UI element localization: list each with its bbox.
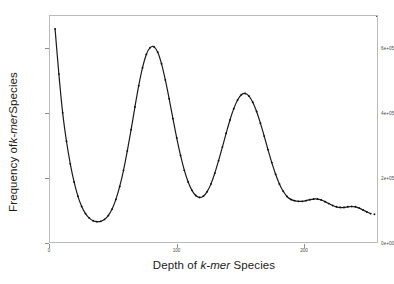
data-point — [96, 221, 98, 223]
title-text-part: Species — [230, 259, 275, 271]
data-point — [145, 53, 147, 55]
kmer-italic-text: k-mer — [7, 114, 19, 144]
plot-panel — [49, 15, 378, 243]
data-point — [58, 73, 60, 75]
data-point — [153, 46, 155, 48]
data-point — [119, 186, 121, 188]
data-point — [256, 111, 258, 113]
data-point — [149, 47, 151, 49]
data-point — [100, 220, 102, 222]
data-point — [191, 189, 193, 191]
data-point — [164, 79, 166, 81]
data-point — [107, 215, 109, 217]
data-point — [66, 140, 68, 142]
x-tick-label: 0 — [29, 248, 69, 253]
data-point — [225, 132, 227, 134]
data-point — [210, 183, 212, 185]
data-point — [130, 129, 132, 131]
data-point — [282, 190, 284, 192]
data-point — [347, 206, 349, 208]
data-point — [115, 198, 117, 200]
data-point — [248, 95, 250, 97]
data-point — [157, 51, 159, 53]
data-point — [343, 207, 345, 209]
data-point — [62, 112, 64, 114]
data-point — [183, 169, 185, 171]
data-point — [358, 207, 360, 209]
data-point — [351, 206, 353, 208]
data-point — [104, 218, 106, 220]
data-point — [316, 198, 318, 200]
x-axis-title: Depth of k-mer Species — [49, 259, 379, 271]
data-point — [294, 200, 296, 202]
data-point — [233, 108, 235, 110]
data-point — [126, 150, 128, 152]
y-axis-title: Frequency of k-mer Species — [0, 0, 26, 284]
data-point — [187, 181, 189, 183]
data-point — [134, 106, 136, 108]
data-point — [332, 205, 334, 207]
data-point — [168, 98, 170, 100]
data-point — [240, 94, 242, 96]
data-point — [73, 181, 75, 183]
x-tick-label: 100 — [157, 248, 197, 253]
data-point — [214, 172, 216, 174]
data-point — [271, 162, 273, 164]
title-text-part: Depth of — [153, 259, 201, 271]
title-text-part: Species — [7, 72, 19, 114]
data-point — [335, 206, 337, 208]
data-point — [85, 213, 87, 215]
data-point — [275, 173, 277, 175]
data-point — [313, 198, 315, 200]
data-point — [81, 206, 83, 208]
data-point — [221, 146, 223, 148]
data-point — [259, 122, 261, 124]
data-point — [328, 203, 330, 205]
data-point — [172, 118, 174, 120]
data-point — [301, 200, 303, 202]
data-point — [362, 209, 364, 211]
data-point — [142, 67, 144, 69]
data-point — [54, 28, 56, 30]
data-point — [69, 163, 71, 165]
data-point — [199, 197, 201, 199]
data-point — [263, 135, 265, 137]
data-point — [305, 200, 307, 202]
data-point — [324, 201, 326, 203]
data-point — [309, 199, 311, 201]
data-point — [123, 169, 125, 171]
data-point — [138, 85, 140, 87]
data-point — [376, 16, 377, 17]
data-point — [244, 93, 246, 95]
data-point — [229, 119, 231, 121]
kmer-italic-text: k-mer — [200, 259, 230, 271]
data-point — [202, 195, 204, 197]
data-point — [161, 63, 163, 65]
plot-area — [50, 16, 377, 242]
chart-figure: Frequency of k-mer Species 0e+002e+054e+… — [0, 0, 394, 284]
data-point — [374, 213, 376, 215]
data-point — [88, 217, 90, 219]
data-point — [176, 137, 178, 139]
kmer-frequency-curve — [55, 29, 371, 222]
data-point — [252, 101, 254, 103]
data-point — [218, 160, 220, 162]
data-point — [366, 211, 368, 213]
data-point — [370, 213, 372, 215]
data-point — [206, 191, 208, 193]
data-point — [77, 195, 79, 197]
title-text-part: Frequency of — [7, 144, 19, 212]
data-point — [111, 208, 113, 210]
data-point — [355, 206, 357, 208]
data-point — [286, 196, 288, 198]
data-point — [297, 200, 299, 202]
data-point — [278, 183, 280, 185]
data-point — [339, 207, 341, 209]
data-point — [195, 195, 197, 197]
data-point — [92, 220, 94, 222]
data-point — [290, 198, 292, 200]
data-point — [267, 149, 269, 151]
data-point — [180, 155, 182, 157]
data-point — [320, 199, 322, 201]
data-point — [237, 99, 239, 101]
